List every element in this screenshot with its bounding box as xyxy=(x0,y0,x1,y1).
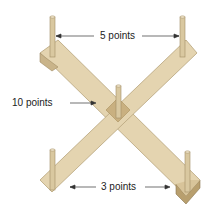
label-5-points: 5 points xyxy=(98,30,137,42)
peg-top-right xyxy=(180,16,185,57)
label-3-points: 3 points xyxy=(99,181,138,193)
peg-center xyxy=(116,85,121,118)
label-10-points: 10 points xyxy=(10,97,55,109)
peg-top-left xyxy=(50,16,55,57)
peg-bottom-left xyxy=(50,149,55,190)
peg-bottom-right xyxy=(185,151,190,192)
